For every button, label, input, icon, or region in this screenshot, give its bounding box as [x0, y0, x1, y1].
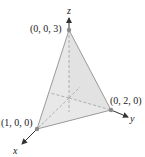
vertex-x-label: (1, 0, 0)	[1, 117, 33, 129]
tetrahedron-diagram: z y x (0, 0, 3) (0, 2, 0) (1, 0, 0)	[0, 0, 145, 157]
vertex-y-dot	[109, 108, 113, 112]
vertex-y-label: (0, 2, 0)	[110, 95, 142, 107]
y-axis-label: y	[129, 113, 135, 124]
y-axis	[111, 110, 128, 117]
x-axis	[22, 129, 37, 144]
vertex-z-dot	[67, 28, 71, 32]
z-axis-label: z	[66, 5, 71, 16]
vertex-x-dot	[35, 127, 39, 131]
vertex-z-label: (0, 0, 3)	[30, 23, 62, 35]
x-axis-label: x	[12, 145, 18, 156]
